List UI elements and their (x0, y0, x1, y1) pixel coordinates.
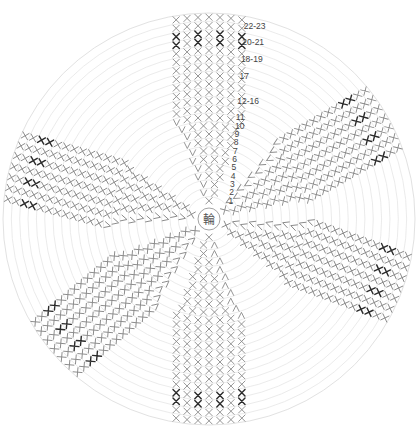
single-crochet-icon (253, 233, 261, 241)
row-label-12-16: 12-16 (237, 96, 259, 106)
single-crochet-icon (195, 342, 201, 348)
single-crochet-icon (173, 364, 179, 370)
increase-icon (239, 222, 247, 230)
single-crochet-icon (211, 284, 217, 290)
single-crochet-icon (173, 372, 179, 378)
single-crochet-icon (379, 243, 387, 251)
single-crochet-icon (195, 325, 201, 331)
single-crochet-icon (184, 408, 190, 414)
increase-icon (228, 298, 234, 304)
increase-icon (201, 182, 207, 188)
single-crochet-icon (184, 99, 190, 105)
single-crochet-icon (239, 364, 245, 370)
single-crochet-icon (343, 253, 351, 261)
single-crochet-icon (154, 184, 162, 192)
single-crochet-icon (217, 401, 223, 407)
single-crochet-icon (332, 261, 340, 269)
single-crochet-icon (107, 166, 115, 174)
single-crochet-icon (195, 106, 201, 112)
single-crochet-icon (173, 347, 179, 353)
single-crochet-icon (239, 415, 245, 421)
single-crochet-icon (206, 418, 212, 424)
single-crochet-icon (206, 131, 212, 137)
single-crochet-icon (217, 409, 223, 415)
single-crochet-icon (195, 401, 201, 407)
single-crochet-icon (228, 315, 234, 321)
single-crochet-icon (238, 347, 244, 353)
single-crochet-icon (173, 338, 179, 344)
single-crochet-icon (195, 14, 201, 20)
single-crochet-icon (387, 281, 395, 289)
single-crochet-icon (167, 194, 175, 202)
single-crochet-icon (46, 195, 54, 203)
single-crochet-icon (277, 241, 285, 249)
single-crochet-icon (211, 275, 217, 281)
single-crochet-icon (195, 31, 201, 37)
single-crochet-icon (393, 260, 401, 268)
single-crochet-icon (228, 24, 234, 30)
single-crochet-icon (206, 47, 212, 53)
single-crochet-icon (195, 317, 201, 323)
single-crochet-icon (206, 64, 212, 70)
single-crochet-icon (280, 231, 288, 239)
single-crochet-icon (70, 145, 78, 153)
single-crochet-icon (335, 251, 343, 259)
single-crochet-icon (206, 14, 212, 20)
single-crochet-icon (228, 366, 234, 372)
single-crochet-icon (173, 312, 179, 318)
single-crochet-icon (121, 204, 129, 212)
single-crochet-icon (87, 217, 95, 225)
single-crochet-icon (58, 153, 66, 161)
single-crochet-icon (296, 193, 305, 202)
single-crochet-icon (228, 400, 234, 406)
single-crochet-icon (25, 144, 33, 152)
increase-icon (231, 219, 239, 227)
increase-icon (211, 242, 217, 248)
single-crochet-icon (228, 57, 234, 63)
single-crochet-icon (129, 206, 137, 214)
single-crochet-icon (211, 123, 217, 129)
single-crochet-icon (206, 106, 212, 112)
single-crochet-icon (146, 205, 154, 213)
single-crochet-icon (95, 208, 103, 216)
single-crochet-icon (112, 207, 120, 215)
single-crochet-icon (363, 273, 371, 281)
single-crochet-icon (217, 325, 223, 331)
increase-icon (217, 258, 223, 264)
single-crochet-icon (217, 392, 223, 398)
single-crochet-icon (206, 97, 212, 103)
single-crochet-icon (184, 24, 190, 30)
single-crochet-icon (90, 162, 98, 170)
single-crochet-icon (135, 185, 143, 193)
single-crochet-icon (228, 117, 234, 123)
single-crochet-icon (195, 334, 201, 340)
single-crochet-icon (87, 150, 95, 158)
single-crochet-icon (239, 390, 245, 396)
single-crochet-icon (24, 178, 32, 186)
single-crochet-icon (86, 172, 94, 180)
single-crochet-icon (206, 89, 212, 95)
single-crochet-icon (190, 273, 196, 279)
single-crochet-icon (228, 83, 234, 89)
increase-icon (154, 213, 161, 220)
single-crochet-icon (228, 15, 234, 21)
single-crochet-icon (195, 132, 201, 138)
single-crochet-icon (195, 417, 201, 423)
single-crochet-icon (173, 17, 179, 23)
single-crochet-icon (319, 186, 328, 195)
single-crochet-icon (217, 292, 223, 298)
single-crochet-icon (188, 210, 196, 218)
single-crochet-icon (217, 376, 223, 382)
single-crochet-icon (206, 114, 212, 120)
single-crochet-icon (195, 23, 201, 29)
single-crochet-icon (217, 174, 223, 180)
single-crochet-icon (184, 324, 190, 330)
single-crochet-icon (184, 298, 190, 304)
single-crochet-icon (95, 152, 103, 160)
single-crochet-icon (159, 191, 167, 199)
single-crochet-icon (12, 197, 20, 205)
single-crochet-icon (195, 367, 201, 373)
single-crochet-icon (308, 253, 316, 261)
single-crochet-icon (217, 350, 223, 356)
single-crochet-icon (361, 249, 369, 257)
